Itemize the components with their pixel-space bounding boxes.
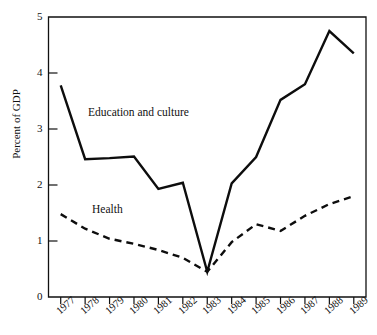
chart-plot-area [0,0,377,335]
y-tick-label-2: 2 [27,179,43,190]
series-annotation-education: Education and culture [88,106,189,118]
chart-figure: 012345 197719781979198019811982198319841… [0,0,377,335]
y-axis-label: Percent of GDP [10,84,22,164]
y-tick-label-0: 0 [27,291,43,302]
axis-frame [49,17,367,297]
series-group [61,31,354,272]
y-tick-label-4: 4 [27,67,43,78]
y-tick-label-1: 1 [27,235,43,246]
axes-group [49,17,367,297]
y-tick-label-5: 5 [27,11,43,22]
y-tick-label-3: 3 [27,123,43,134]
series-annotation-health: Health [92,203,123,215]
